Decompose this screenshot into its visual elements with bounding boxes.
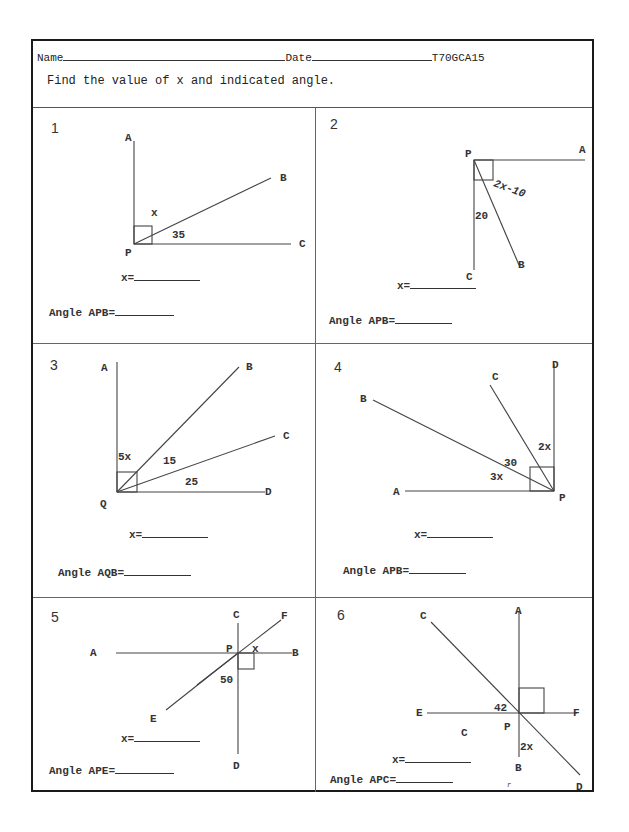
p6-angle-42: 42 [494, 702, 507, 714]
p3-expr-5x: 5x [118, 451, 132, 463]
p3-label-D: D [265, 486, 272, 498]
p3-angle-prompt: Angle AQB= [58, 567, 124, 579]
p6-label-P: P [504, 721, 511, 733]
p6-angle-prompt: Angle APC= [330, 774, 396, 786]
problem-number-2: 2 [330, 116, 338, 132]
p4-expr-2x: 2x [538, 441, 552, 453]
p4-x-answer: x= [414, 527, 493, 541]
p2-angle-20: 20 [475, 210, 488, 222]
p1-x-prompt: x= [121, 272, 134, 284]
p5-angle-answer: Angle APE= [49, 763, 174, 777]
p1-angle-answer: Angle APB= [49, 305, 174, 319]
p4-angle-prompt: Angle APB= [343, 565, 409, 577]
p1-label-B: B [280, 172, 287, 184]
problem-number-1: 1 [51, 120, 59, 136]
p6-angle-answer: Angle APC= [330, 772, 453, 786]
p6-label-F: F [573, 707, 580, 719]
p5-angle-prompt: Angle APE= [49, 765, 115, 777]
p2-x-answer: x= [397, 278, 476, 292]
p5-unknown-x: x [252, 643, 259, 655]
p4-angle-answer: Angle APB= [343, 563, 466, 577]
p3-x-field[interactable] [142, 527, 208, 538]
p1-label-A: A [125, 132, 132, 144]
p1-x-answer: x= [121, 270, 200, 284]
p3-label-B: B [246, 361, 253, 373]
p6-region-C: C [461, 727, 468, 739]
problem-number-6: 6 [337, 607, 345, 623]
p5-x-answer: x= [121, 731, 200, 745]
p4-label-A: A [393, 486, 400, 498]
p3-angle-25: 25 [185, 476, 199, 488]
figures-layer: A B C P x 35 A P C B 20 2x-10 A [33, 41, 596, 794]
problem-number-4: 4 [334, 359, 342, 375]
p5-label-D: D [233, 760, 240, 772]
problem-3-figure: A B C D Q 5x 15 25 [100, 361, 290, 510]
p2-angle-field[interactable] [395, 313, 452, 324]
p2-angle-answer: Angle APB= [329, 313, 452, 327]
worksheet: NameDateT70GCA15 Find the value of x and… [31, 39, 594, 792]
p6-label-A: A [515, 605, 522, 617]
p2-label-P: P [465, 148, 472, 160]
p5-angle-field[interactable] [115, 763, 174, 774]
p4-label-P: P [559, 492, 566, 504]
p1-label-P: P [125, 247, 132, 259]
p1-unknown-x: x [151, 207, 158, 219]
p6-x-answer: x= [392, 752, 471, 766]
p6-x-field[interactable] [405, 752, 471, 763]
p3-x-answer: x= [129, 527, 208, 541]
p5-label-P: P [226, 643, 233, 655]
p2-label-A: A [579, 144, 586, 156]
p4-angle-field[interactable] [409, 563, 466, 574]
p3-x-prompt: x= [129, 529, 142, 541]
p6-angle-field[interactable] [396, 772, 453, 783]
p2-angle-prompt: Angle APB= [329, 315, 395, 327]
p4-label-B: B [360, 393, 367, 405]
p3-label-C: C [283, 430, 290, 442]
p1-angle-prompt: Angle APB= [49, 307, 115, 319]
p1-label-C: C [299, 238, 306, 250]
p3-angle-answer: Angle AQB= [58, 565, 191, 579]
p5-label-C: C [233, 609, 240, 621]
problem-5-figure: A B C D E F P x 50 [90, 609, 299, 772]
p6-label-E: E [416, 707, 423, 719]
p3-label-A: A [101, 362, 108, 374]
p4-x-prompt: x= [414, 529, 427, 541]
p6-label-C: C [420, 610, 427, 622]
p4-label-D: D [552, 359, 559, 371]
p5-label-E: E [150, 713, 157, 725]
p4-x-field[interactable] [427, 527, 493, 538]
problem-2-figure: A P C B 20 2x-10 [465, 144, 586, 283]
p5-x-prompt: x= [121, 733, 134, 745]
problem-4-figure: D C B A P 2x 30 3x [360, 359, 566, 504]
p2-x-prompt: x= [397, 280, 410, 292]
p5-angle-50: 50 [220, 674, 233, 686]
p2-expr: 2x-10 [492, 178, 527, 201]
p6-label-B: B [515, 762, 522, 774]
problem-number-5: 5 [51, 609, 59, 625]
p5-label-F: F [281, 610, 288, 622]
problem-1-figure: A B C P x 35 [125, 132, 306, 259]
p5-x-field[interactable] [134, 731, 200, 742]
p4-angle-30: 30 [504, 457, 517, 469]
p3-label-Q: Q [100, 498, 107, 510]
p1-x-field[interactable] [134, 270, 200, 281]
p3-angle-15: 15 [163, 455, 177, 467]
p1-angle-35: 35 [172, 229, 186, 241]
p6-label-D: D [576, 781, 583, 793]
p6-expr-2x: 2x [520, 741, 534, 753]
p2-label-B: B [518, 259, 525, 271]
p4-label-C: C [492, 371, 499, 383]
p2-x-field[interactable] [410, 278, 476, 289]
p5-label-A: A [90, 647, 97, 659]
p4-expr-3x: 3x [490, 471, 504, 483]
p6-x-prompt: x= [392, 754, 405, 766]
p5-label-B: B [292, 647, 299, 659]
problem-number-3: 3 [50, 357, 58, 373]
p6-stray-mark: r [507, 781, 511, 789]
p3-angle-field[interactable] [124, 565, 191, 576]
p1-angle-field[interactable] [115, 305, 174, 316]
